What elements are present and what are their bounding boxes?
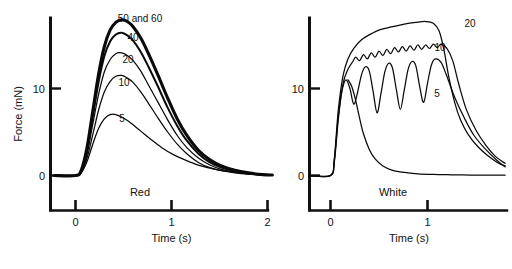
x-tick-label-0-red: 0 — [72, 216, 78, 228]
x-tick-label-2-red: 2 — [264, 216, 270, 228]
panel-label-red: Red — [130, 186, 150, 198]
trace-group-white — [309, 21, 505, 176]
series-label-white-0: 20 — [464, 18, 476, 29]
panel-label-white: White — [379, 186, 407, 198]
y-tick-label-0-red: 0 — [39, 170, 45, 182]
y-axis-title-red: Force (mN) — [12, 86, 24, 142]
panel-red-svg: 0 10 0 1 2 Time (s) Force (mN) Red 50 an… — [0, 0, 285, 269]
series-label-white-2: 5 — [434, 88, 440, 99]
series-label-red-4: 5 — [119, 113, 125, 124]
figure-root: 0 10 0 1 2 Time (s) Force (mN) Red 50 an… — [0, 0, 512, 269]
trace-10 — [309, 44, 505, 177]
x-axis-title-red: Time (s) — [152, 232, 192, 244]
panel-white: 0 10 0 1 Time (s) White 20 10 5 — [285, 0, 512, 269]
series-label-red-3: 10 — [118, 77, 130, 88]
x-tick-label-0-white: 0 — [327, 216, 333, 228]
series-label-red-1: 40 — [127, 32, 139, 43]
y-tick-label-10-white: 10 — [292, 83, 304, 95]
trace-5-twitch-decay — [348, 80, 505, 175]
trace-20 — [309, 21, 505, 176]
panel-white-svg: 0 10 0 1 Time (s) White 20 10 5 — [285, 0, 512, 269]
panel-red: 0 10 0 1 2 Time (s) Force (mN) Red 50 an… — [0, 0, 285, 269]
trace-5 — [309, 59, 505, 177]
trace-group-red — [54, 20, 272, 176]
series-label-red-2: 20 — [122, 54, 134, 65]
y-tick-label-10-red: 10 — [33, 83, 45, 95]
x-axis-title-white: Time (s) — [389, 232, 429, 244]
y-tick-label-0-white: 0 — [298, 170, 304, 182]
x-tick-label-1-white: 1 — [424, 216, 430, 228]
series-label-red-0: 50 and 60 — [118, 13, 163, 24]
series-label-white-1: 10 — [434, 42, 446, 53]
x-tick-label-1-red: 1 — [168, 216, 174, 228]
